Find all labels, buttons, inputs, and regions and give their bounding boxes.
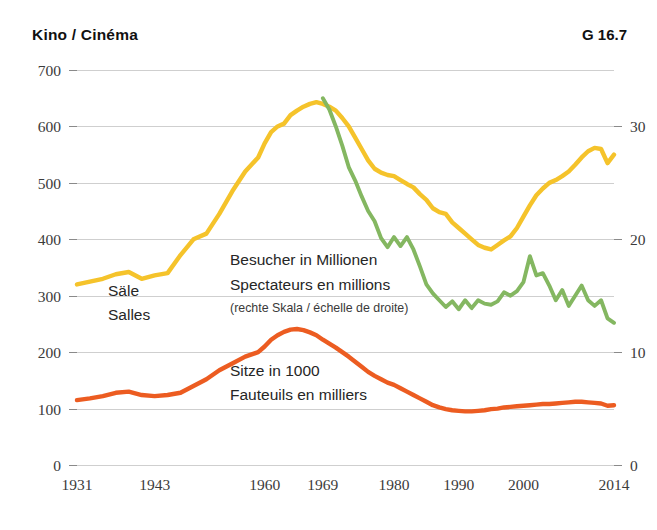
left-axis-ticks xyxy=(69,71,77,466)
right-axis-ticks xyxy=(614,127,622,466)
left-axis-tick-label: 200 xyxy=(38,344,62,361)
right-axis-tick-label: 20 xyxy=(630,231,646,248)
right-axis-tick-label: 10 xyxy=(630,344,646,361)
x-axis-tick-label: 1960 xyxy=(249,476,280,493)
left-axis-tick-label: 700 xyxy=(38,62,62,79)
x-axis-tick-label: 2014 xyxy=(599,476,630,493)
left-axis-labels: 0100200300400500600700 xyxy=(38,62,62,474)
x-axis-tick-label: 2000 xyxy=(508,476,539,493)
x-axis-tick-label: 1980 xyxy=(379,476,410,493)
green-series-label-line3: (rechte Skala / échelle de droite) xyxy=(230,301,408,315)
yellow-series-label-line2: Salles xyxy=(108,306,150,323)
annotation-besucher: Besucher in Millionen Spectateurs en mil… xyxy=(230,251,408,315)
green-series-label-line1: Besucher in Millionen xyxy=(230,251,377,268)
x-axis-tick-label: 1969 xyxy=(307,476,338,493)
x-axis-tick-label: 1931 xyxy=(62,476,93,493)
x-axis-tick-label: 1990 xyxy=(443,476,474,493)
chart-page: Kino / Cinéma G 16.7 0100200300400500600… xyxy=(0,0,657,530)
orange-series-label-line1: Sitze in 1000 xyxy=(230,362,320,379)
right-axis-tick-label: 30 xyxy=(630,118,646,135)
annotation-saele: Säle Salles xyxy=(108,282,150,323)
right-axis-labels: 0102030 xyxy=(630,118,646,474)
left-axis-tick-label: 400 xyxy=(38,231,62,248)
left-axis-tick-label: 0 xyxy=(53,457,61,474)
yellow-series-label-line1: Säle xyxy=(108,282,139,299)
left-axis-tick-label: 600 xyxy=(38,118,62,135)
green-series-label-line2: Spectateurs en millions xyxy=(230,276,390,293)
annotation-sitze: Sitze in 1000 Fauteuils en milliers xyxy=(230,362,367,403)
right-axis-tick-label: 0 xyxy=(630,457,638,474)
chart-canvas: 0100200300400500600700 0102030 193119431… xyxy=(0,0,657,530)
left-axis-tick-label: 500 xyxy=(38,175,62,192)
x-axis-tick-label: 1943 xyxy=(139,476,170,493)
x-axis-labels: 19311943196019691980199020002014 xyxy=(62,476,630,493)
left-axis-tick-label: 100 xyxy=(38,401,62,418)
orange-series-label-line2: Fauteuils en milliers xyxy=(230,386,367,403)
left-axis-tick-label: 300 xyxy=(38,288,62,305)
